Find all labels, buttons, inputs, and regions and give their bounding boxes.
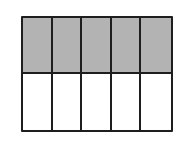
shaded-cell <box>53 18 83 74</box>
unshaded-cell <box>53 74 83 130</box>
shaded-cell <box>82 18 112 74</box>
unshaded-cell <box>82 74 112 130</box>
shaded-cell <box>23 18 53 74</box>
fraction-grid <box>21 16 173 132</box>
shaded-cell <box>112 18 142 74</box>
unshaded-cell <box>112 74 142 130</box>
unshaded-cell <box>141 74 171 130</box>
unshaded-cell <box>23 74 53 130</box>
shaded-cell <box>141 18 171 74</box>
